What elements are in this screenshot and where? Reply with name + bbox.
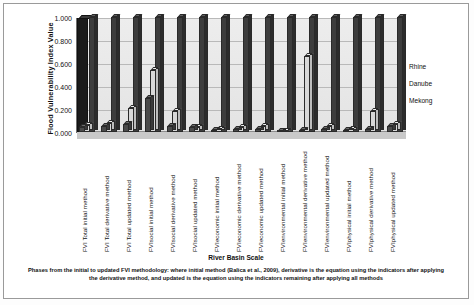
y-tick-label: 0.800: [38, 38, 72, 45]
bar-group: [341, 18, 363, 132]
bar-rhine: [145, 98, 151, 133]
bar-group: [253, 18, 275, 132]
bar-side: [178, 109, 181, 130]
bar-side: [337, 15, 340, 130]
bar-side: [139, 15, 142, 130]
bar-group: [319, 18, 341, 132]
bar-side: [403, 15, 406, 130]
x-category-label: FVIenvironmental updated method: [323, 142, 330, 252]
legend-item-mekong: Mekong: [398, 96, 460, 104]
bar-rhine: [101, 126, 107, 132]
x-category-label: FVIsocial derivative method: [169, 142, 176, 252]
bar-side: [173, 124, 176, 130]
bar-rhine: [321, 129, 327, 132]
figure-caption: Phases from the initial to updated FVI m…: [28, 266, 444, 282]
bar-side: [332, 124, 335, 130]
bar-rhine: [299, 130, 305, 132]
bar-side: [90, 123, 93, 130]
bar-rhine: [233, 129, 239, 132]
bar-mekong: [243, 17, 249, 132]
bar-rhine: [255, 129, 261, 132]
bar-side: [151, 96, 154, 131]
bar-rhine: [365, 129, 371, 132]
legend-label-rhine: Rhine: [409, 63, 426, 70]
x-axis-title: River Basin Scale: [4, 254, 468, 261]
x-category-label: FVIphysical derivative method: [367, 142, 374, 252]
bar-side: [200, 125, 203, 130]
bar-side: [271, 15, 274, 130]
bar-side: [117, 15, 120, 130]
bar-group: [231, 18, 253, 132]
legend-label-mekong: Mekong: [409, 97, 432, 104]
bar-group: [385, 18, 407, 132]
x-category-label: FVIenvironmental initial method: [279, 142, 286, 252]
bar-side: [315, 15, 318, 130]
bar-side: [134, 106, 137, 130]
bar-group: [165, 18, 187, 132]
bar-group: [363, 18, 385, 132]
bar-side: [354, 127, 357, 130]
x-category-label: FVIeconomic initial method: [213, 142, 220, 252]
bar-mekong: [353, 17, 359, 132]
bar-series-container: [77, 18, 406, 132]
x-category-label: FVIsocial initial method: [147, 142, 154, 252]
bar-mekong: [397, 17, 403, 132]
bar-group: [209, 18, 231, 132]
bar-rhine: [189, 127, 195, 132]
plot-canvas: [76, 18, 406, 133]
plot-floor: [77, 131, 406, 139]
bar-side: [349, 128, 352, 130]
bar-side: [195, 125, 198, 130]
y-tick-label: 1.000: [38, 15, 72, 22]
bar-side: [327, 127, 330, 130]
bar-group: [297, 18, 319, 132]
bar-side: [112, 121, 115, 130]
bar-side: [205, 15, 208, 130]
legend-item-danube: Danube: [398, 79, 460, 87]
y-tick-label: 0.200: [38, 107, 72, 114]
x-category-label: FVIphysical updated method: [389, 142, 396, 252]
legend-item-rhine: Rhine: [398, 62, 460, 70]
bar-side: [371, 127, 374, 130]
plot-area-wrapper: Flood Vulnerability Index Value 0.0000.2…: [12, 12, 464, 252]
bar-mekong: [331, 17, 337, 132]
bar-side: [283, 128, 286, 130]
x-category-label: FVIphysical initial method: [345, 142, 352, 252]
bar-side: [398, 122, 401, 130]
bar-side: [183, 15, 186, 130]
bar-rhine: [343, 130, 349, 132]
x-category-label: FVI Total derivative method: [103, 142, 110, 252]
y-tick-label: 0.400: [38, 84, 72, 91]
x-category-label: FVIenvironmental derivative method: [301, 142, 308, 252]
bar-rhine: [387, 126, 393, 132]
bar-rhine: [79, 127, 85, 132]
bar-side: [244, 125, 247, 130]
bar-side: [129, 122, 132, 130]
bar-side: [288, 128, 291, 130]
bar-side: [239, 127, 242, 130]
figure-frame: Flood Vulnerability Index Value 0.0000.2…: [3, 3, 469, 299]
chart-legend: Rhine Danube Mekong: [398, 62, 460, 113]
bar-side: [381, 15, 384, 130]
x-axis-category-labels: FVI Total initial methodFVI Total deriva…: [76, 140, 406, 252]
x-category-label: FVI Total initial method: [81, 142, 88, 252]
x-category-label: FVIsocial updated method: [191, 142, 198, 252]
bar-group: [99, 18, 121, 132]
bar-side: [393, 124, 396, 130]
bar-rhine: [167, 126, 173, 132]
bar-danube: [304, 56, 310, 132]
bar-side: [249, 15, 252, 130]
bar-side: [261, 127, 264, 130]
bar-side: [376, 109, 379, 130]
y-axis-title: Flood Vulnerability Index Value: [46, 19, 55, 139]
bar-group: [143, 18, 165, 132]
bar-group: [121, 18, 143, 132]
bar-face: [299, 130, 305, 132]
bar-mekong: [89, 17, 95, 132]
bar-side: [222, 127, 225, 130]
bar-side: [359, 15, 362, 130]
bar-side: [305, 128, 308, 130]
legend-label-danube: Danube: [409, 80, 432, 87]
bar-side: [266, 124, 269, 130]
bar-side: [85, 125, 88, 130]
